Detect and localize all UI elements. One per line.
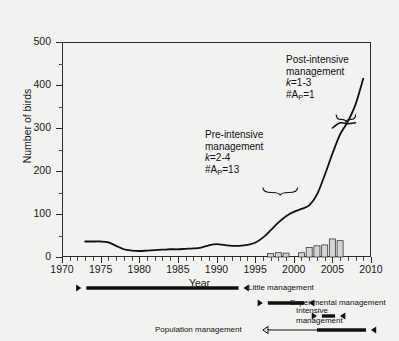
x-tick-label-1985: 1985 bbox=[158, 263, 198, 275]
x-tick-label-1980: 1980 bbox=[119, 263, 159, 275]
x-minor-tick-1989 bbox=[209, 257, 210, 261]
x-minor-tick-2002 bbox=[309, 257, 310, 261]
x-tick-label-1995: 1995 bbox=[235, 263, 275, 275]
x-minor-tick-1988 bbox=[201, 257, 202, 261]
annotation-post-intensive-management: Post-intensivemanagementk=1-3#AP=1 bbox=[286, 54, 349, 103]
x-minor-tick-1997 bbox=[271, 257, 272, 261]
x-minor-tick-2004 bbox=[325, 257, 326, 261]
x-minor-tick-1984 bbox=[170, 257, 171, 261]
y-minor-tick-450 bbox=[59, 64, 63, 65]
x-minor-tick-1972 bbox=[77, 257, 78, 261]
x-minor-tick-2008 bbox=[356, 257, 357, 261]
x-minor-tick-1981 bbox=[147, 257, 148, 261]
x-minor-tick-1977 bbox=[116, 257, 117, 261]
annotation-line: management bbox=[205, 141, 263, 153]
annotation-line: management bbox=[286, 66, 349, 78]
y-tick-500 bbox=[56, 42, 63, 43]
x-minor-tick-1994 bbox=[247, 257, 248, 261]
y-tick-label-0: 0 bbox=[11, 251, 51, 262]
annotation-line: Pre-intensive bbox=[205, 129, 263, 141]
annotation-pre-intensive-management: Pre-intensivemanagementk=2-4#AP=13 bbox=[205, 129, 263, 178]
x-tick-label-1975: 1975 bbox=[81, 263, 121, 275]
x-minor-tick-1976 bbox=[108, 257, 109, 261]
x-minor-tick-1983 bbox=[162, 257, 163, 261]
x-minor-tick-1992 bbox=[232, 257, 233, 261]
annotation-count-value: #AP=13 bbox=[205, 164, 263, 179]
x-minor-tick-1998 bbox=[278, 257, 279, 261]
x-tick-label-2005: 2005 bbox=[312, 263, 352, 275]
period-arrow-population-management bbox=[263, 326, 376, 333]
arrow-head bbox=[258, 299, 263, 306]
x-minor-tick-1982 bbox=[155, 257, 156, 261]
y-tick-400 bbox=[56, 85, 63, 86]
x-minor-tick-2007 bbox=[348, 257, 349, 261]
x-minor-tick-1999 bbox=[286, 257, 287, 261]
arrow-head-hollow bbox=[263, 326, 268, 333]
period-label-population-management: Population management bbox=[155, 325, 242, 335]
x-minor-tick-2003 bbox=[317, 257, 318, 261]
y-tick-label-400: 400 bbox=[11, 79, 51, 90]
x-tick-label-2010: 2010 bbox=[351, 263, 391, 275]
annotation-count-value: #AP=1 bbox=[286, 89, 349, 104]
y-tick-label-100: 100 bbox=[11, 208, 51, 219]
y-tick-label-300: 300 bbox=[11, 122, 51, 133]
y-tick-100 bbox=[56, 214, 63, 215]
x-minor-tick-1987 bbox=[193, 257, 194, 261]
arrow-head bbox=[371, 326, 376, 333]
annotation-k-value: k=1-3 bbox=[286, 77, 349, 89]
x-minor-tick-2001 bbox=[301, 257, 302, 261]
period-label-little-management: Little management bbox=[248, 283, 314, 293]
y-minor-tick-50 bbox=[59, 236, 63, 237]
x-minor-tick-1978 bbox=[124, 257, 125, 261]
period-label-line: Intensive bbox=[296, 306, 343, 316]
x-minor-tick-1973 bbox=[85, 257, 86, 261]
y-tick-label-200: 200 bbox=[11, 165, 51, 176]
y-tick-300 bbox=[56, 128, 63, 129]
x-tick-label-2000: 2000 bbox=[274, 263, 314, 275]
x-minor-tick-1971 bbox=[70, 257, 71, 261]
y-tick-200 bbox=[56, 171, 63, 172]
x-minor-tick-1993 bbox=[240, 257, 241, 261]
x-minor-tick-2006 bbox=[340, 257, 341, 261]
period-label-intensive-management: Intensivemanagement bbox=[296, 306, 343, 325]
x-minor-tick-1986 bbox=[186, 257, 187, 261]
y-tick-label-500: 500 bbox=[11, 36, 51, 47]
x-axis-title: Year bbox=[0, 277, 399, 289]
annotation-line: Post-intensive bbox=[286, 54, 349, 66]
x-minor-tick-1996 bbox=[263, 257, 264, 261]
y-minor-tick-250 bbox=[59, 150, 63, 151]
x-tick-label-1970: 1970 bbox=[42, 263, 82, 275]
x-minor-tick-1991 bbox=[224, 257, 225, 261]
x-minor-tick-2009 bbox=[363, 257, 364, 261]
period-label-line: management bbox=[296, 316, 343, 326]
x-minor-tick-1974 bbox=[93, 257, 94, 261]
y-minor-tick-350 bbox=[59, 107, 63, 108]
annotation-k-value: k=2-4 bbox=[205, 152, 263, 164]
x-tick-label-1990: 1990 bbox=[197, 263, 237, 275]
x-minor-tick-1979 bbox=[132, 257, 133, 261]
y-minor-tick-150 bbox=[59, 193, 63, 194]
bird-population-figure: Number of birds Year 0100200300400500197… bbox=[0, 0, 399, 341]
